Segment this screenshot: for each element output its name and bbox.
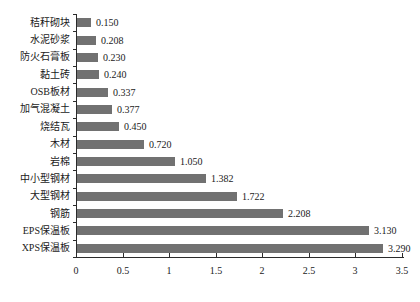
- y-axis-tick: [73, 66, 76, 67]
- x-tick-label: 2: [245, 265, 279, 277]
- bar-value-label: 0.720: [149, 139, 172, 150]
- bar: [77, 192, 237, 201]
- bar-value-label: 0.208: [101, 35, 124, 46]
- bar-value-label: 2.208: [288, 208, 311, 219]
- bar: [77, 18, 91, 27]
- y-axis-tick: [73, 14, 76, 15]
- y-axis-tick: [73, 118, 76, 119]
- x-axis-tick: [216, 253, 217, 257]
- x-axis-tick: [355, 253, 356, 257]
- category-label: 水泥砂浆: [0, 34, 70, 46]
- y-axis-tick: [73, 188, 76, 189]
- x-axis-tick: [309, 253, 310, 257]
- bar: [77, 174, 206, 183]
- y-axis-tick: [73, 49, 76, 50]
- bar: [77, 53, 98, 62]
- bar-value-label: 0.450: [124, 121, 147, 132]
- x-axis-tick: [123, 253, 124, 257]
- horizontal-bar-chart: 秸秆砌块水泥砂浆防火石膏板黏土砖OSB板材加气混凝土烧结瓦木材岩棉中小型钢材大型…: [0, 0, 420, 302]
- x-tick-label: 0.5: [106, 265, 140, 277]
- y-axis-tick: [73, 136, 76, 137]
- category-label: 秸秆砌块: [0, 17, 70, 29]
- bar-value-label: 3.130: [374, 225, 397, 236]
- y-axis-tick: [73, 101, 76, 102]
- bar-value-label: 0.337: [113, 87, 136, 98]
- x-tick-label: 1: [152, 265, 186, 277]
- bar-value-label: 0.377: [117, 104, 140, 115]
- y-axis-tick: [73, 257, 76, 258]
- x-tick-label: 2.5: [292, 265, 326, 277]
- y-axis-tick: [73, 170, 76, 171]
- y-axis-tick: [73, 31, 76, 32]
- category-label: EPS保温板: [0, 225, 70, 237]
- y-axis-tick: [73, 222, 76, 223]
- bar-value-label: 0.240: [104, 69, 127, 80]
- bar-value-label: 0.150: [96, 17, 119, 28]
- category-label: 木材: [0, 138, 70, 150]
- bar: [77, 122, 119, 131]
- category-label: 中小型钢材: [0, 173, 70, 185]
- bar-value-label: 3.290: [388, 243, 411, 254]
- bar-value-label: 1.382: [211, 173, 234, 184]
- category-label: XPS保温板: [0, 242, 70, 254]
- bar: [77, 226, 369, 235]
- x-tick-label: 3: [338, 265, 372, 277]
- bar: [77, 70, 99, 79]
- category-label: 烧结瓦: [0, 121, 70, 133]
- bar: [77, 88, 108, 97]
- x-axis-tick: [169, 253, 170, 257]
- bar: [77, 140, 144, 149]
- x-tick-label: 0: [59, 265, 93, 277]
- x-tick-label: 3.5: [385, 265, 419, 277]
- y-axis-tick: [73, 153, 76, 154]
- y-axis-tick: [73, 205, 76, 206]
- bar: [77, 105, 112, 114]
- x-tick-label: 1.5: [199, 265, 233, 277]
- bar-value-label: 0.230: [103, 52, 126, 63]
- bar: [77, 36, 96, 45]
- bar-value-label: 1.722: [242, 191, 265, 202]
- y-axis-line: [76, 14, 77, 257]
- category-label: OSB板材: [0, 86, 70, 98]
- bar: [77, 157, 175, 166]
- bar-value-label: 1.050: [180, 156, 203, 167]
- bar: [77, 244, 383, 253]
- category-label: 防火石膏板: [0, 51, 70, 63]
- y-axis-tick: [73, 240, 76, 241]
- x-axis-line: [76, 257, 404, 258]
- category-label: 加气混凝土: [0, 103, 70, 115]
- x-axis-tick: [262, 253, 263, 257]
- category-label: 钢筋: [0, 208, 70, 220]
- category-label: 岩棉: [0, 156, 70, 168]
- bar: [77, 209, 283, 218]
- y-axis-tick: [73, 83, 76, 84]
- category-label: 大型钢材: [0, 190, 70, 202]
- category-label: 黏土砖: [0, 69, 70, 81]
